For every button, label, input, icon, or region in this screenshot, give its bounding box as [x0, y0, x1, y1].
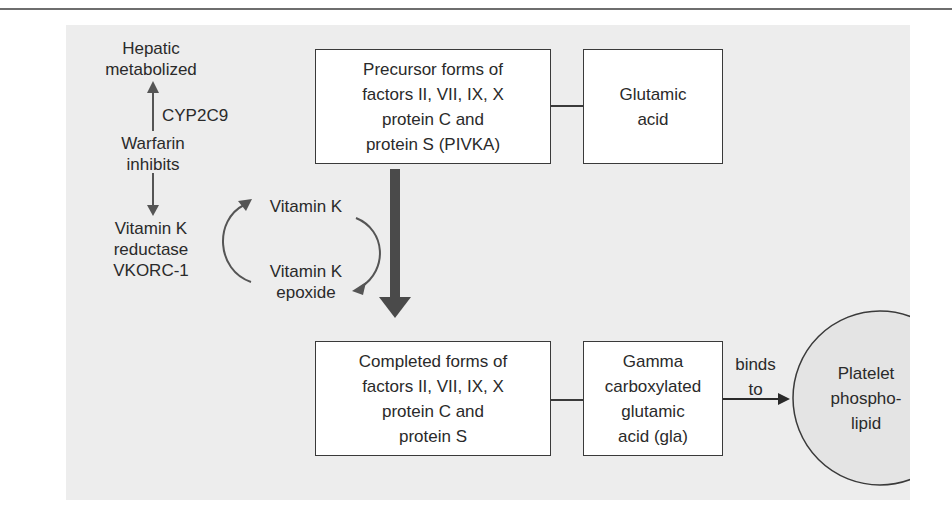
top-rule [0, 8, 952, 10]
reductase-label: Vitamin K reductase VKORC-1 [86, 218, 216, 281]
vitamin-k-epoxide-label: Vitamin K epoxide [251, 261, 361, 303]
gla-box: Gamma carboxylated glutamic acid (gla) [583, 341, 723, 456]
down-arrow-icon [147, 173, 159, 216]
curved-arrow-up-icon [223, 199, 252, 282]
cyp2c9-label: CYP2C9 [162, 105, 252, 126]
warfarin-label: Warfarin inhibits [88, 133, 218, 175]
diagram-panel: Hepatic metabolized CYP2C9 Warfarin inhi… [66, 25, 910, 500]
precursor-forms-box: Precursor forms of factors II, VII, IX, … [315, 49, 551, 164]
up-arrow-icon [147, 81, 159, 131]
main-down-arrow-icon [379, 169, 411, 318]
vitamin-k-label: Vitamin K [251, 196, 361, 217]
platelet-phospholipid-label: Platelet phospho- lipid [806, 361, 910, 436]
completed-forms-box: Completed forms of factors II, VII, IX, … [315, 341, 551, 456]
glutamic-acid-box: Glutamic acid [583, 49, 723, 164]
binds-to-label: binds to [728, 352, 783, 402]
hepatic-label: Hepatic metabolized [86, 38, 216, 80]
